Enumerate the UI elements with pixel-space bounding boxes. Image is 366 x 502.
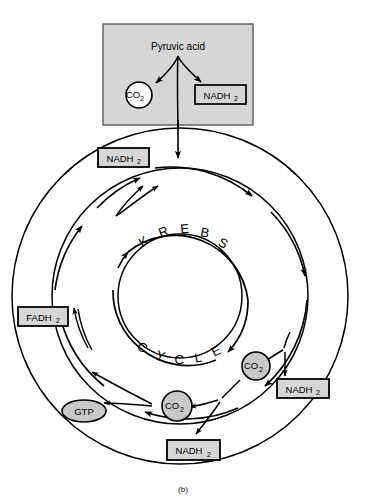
nadh2-top: NADH 2 [195,85,246,104]
co2-bottom-subscript: 2 [180,406,184,413]
cycle-arc-2 [271,212,305,276]
inner-ring [118,234,242,358]
fadh2-left: FADH 2 [18,307,68,326]
inner-arc-right [228,300,248,352]
branch-fadh2-a [74,308,88,348]
gtp-label: GTP [74,406,94,417]
branch-right-stem [284,332,290,348]
krebs-letter-0: K [136,232,152,249]
nadh2-upper-left-subscript: 2 [137,158,141,165]
nadh2-bottom: NADH 2 [167,440,220,460]
co2-right-label: CO [244,360,258,371]
nadh2-right-label: NADH [286,384,313,395]
krebs-letter-2: E [180,221,190,237]
nadh2-right: NADH 2 [277,379,329,398]
nadh2-bottom-subscript: 2 [207,451,211,458]
nadh2-top-subscript: 2 [234,95,238,102]
branch-gtp-b [92,372,152,404]
branch-nadh2-upper-left-a [116,186,143,216]
pyruvic-acid-label: Pyruvic acid [151,41,205,52]
cycle-letter-3: L [193,350,203,366]
pyruvic-main-stem [177,56,178,128]
branch-bottom-stem [222,380,240,398]
nadh2-upper-left: NADH 2 [98,148,149,167]
cycle-arc-6 [55,226,82,290]
middle-ring [52,168,308,424]
krebs-cycle-figure: Pyruvic acid CO 2 NADH 2 K [0,0,366,502]
co2-top: CO 2 [126,82,152,108]
gtp-lower-left: GTP [62,400,106,422]
co2-top-label: CO [126,89,140,100]
co2-bottom: CO 2 [162,391,192,421]
nadh2-top-label: NADH [204,90,231,101]
fadh2-left-label: FADH [26,312,51,323]
co2-right: CO 2 [242,352,270,380]
cycle-letter-2: C [174,352,184,368]
fadh2-left-subscript: 2 [56,317,60,324]
krebs-letter-3: B [199,224,211,240]
nadh2-right-subscript: 2 [316,389,320,396]
co2-bottom-label: CO [165,400,179,411]
figure-caption: (b) [178,485,188,494]
co2-right-subscript: 2 [259,366,263,373]
co2-top-subscript: 2 [140,95,144,102]
cycle-letter-4: E [209,342,223,359]
nadh2-upper-left-label: NADH [107,153,134,164]
nadh2-bottom-label: NADH [176,445,203,456]
pyruvic-acid-panel: Pyruvic acid CO 2 NADH 2 [103,24,253,128]
branch-co2-bottom [190,400,218,407]
